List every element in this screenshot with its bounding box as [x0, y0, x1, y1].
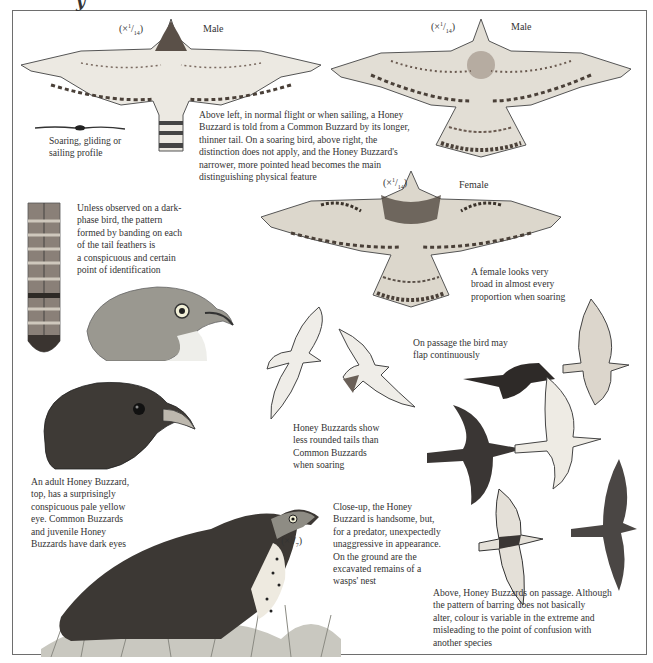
tail-feather-illustration	[26, 201, 62, 361]
scale-prefix: (×	[281, 535, 290, 546]
perched-scale: (×1/7)	[281, 535, 302, 548]
passage-caption: Above, Honey Buzzards on passage. Althou…	[433, 587, 612, 649]
scale-suffix: )	[452, 21, 455, 32]
scale-prefix: (×	[383, 177, 392, 188]
scale-suffix: )	[299, 535, 302, 546]
female-scale: (×1/14)	[383, 177, 407, 190]
heading-fragment: y	[76, 0, 85, 11]
soaring-profile-silhouette	[35, 122, 125, 134]
passage-buzzards-illustration	[423, 293, 639, 623]
scale-numerator: 1	[128, 23, 131, 29]
illustration-plate-frame: (×1/14) Male Soaring, gliding or sailing…	[12, 10, 647, 655]
juvenile-head-dark-eye-illustration	[27, 373, 197, 473]
scale-prefix: (×	[431, 21, 440, 32]
male-soaring-label: Male	[511, 21, 532, 32]
scale-numerator: 1	[440, 21, 443, 27]
perched-honey-buzzard-illustration	[41, 489, 341, 657]
female-label: Female	[459, 179, 488, 190]
soaring-buzzards-tails-illustration	[259, 303, 419, 423]
male-soaring-scale: (×1/14)	[431, 21, 455, 34]
tail-feather-caption: Unless observed on a dark- phase bird, t…	[77, 202, 182, 276]
tails-caption: Honey Buzzards show less rounded tails t…	[293, 422, 379, 472]
profile-caption: Soaring, gliding or sailing profile	[49, 135, 121, 160]
scale-numerator: 1	[290, 535, 293, 541]
scale-suffix: )	[140, 23, 143, 34]
scale-numerator: 1	[392, 177, 395, 183]
scale-prefix: (×	[119, 23, 128, 34]
male-underside-scale: (×1/14)	[119, 23, 143, 36]
scale-suffix: )	[404, 177, 407, 188]
male-underside-label: Male	[203, 23, 224, 34]
closeup-caption: Close-up, the Honey Buzzard is handsome,…	[333, 501, 441, 588]
adult-head-pale-eye-illustration	[77, 281, 237, 361]
